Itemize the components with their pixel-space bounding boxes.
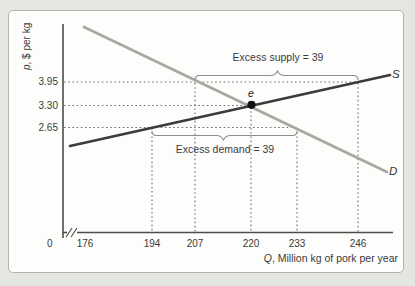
y-tick-2.65: 2.65 — [20, 122, 58, 133]
axis-break-slash-2 — [71, 228, 77, 237]
y-axis-variable: p — [21, 64, 32, 70]
x-tick-176: 176 — [77, 238, 94, 249]
x-tick-207: 207 — [187, 238, 204, 249]
x-axis-units: , Million kg of pork per year — [272, 252, 398, 264]
x-axis-variable: Q — [264, 252, 272, 264]
supply-curve-label: S — [392, 68, 400, 80]
origin-label: 0 — [47, 238, 53, 249]
y-axis-label: p, $ per kg — [21, 23, 32, 70]
x-tick-233: 233 — [289, 238, 306, 249]
x-tick-246: 246 — [350, 238, 367, 249]
demand-curve-label: D — [389, 165, 397, 177]
y-axis-units: , $ per kg — [21, 23, 32, 65]
y-tick-3.30: 3.30 — [20, 100, 58, 111]
excess-demand-annotation: Excess demand = 39 — [176, 143, 274, 155]
y-tick-3.95: 3.95 — [20, 76, 58, 87]
excess-demand-brace — [152, 131, 297, 140]
excess-supply-brace — [195, 71, 358, 80]
x-tick-194: 194 — [144, 238, 161, 249]
equilibrium-point — [247, 101, 255, 109]
x-tick-220: 220 — [243, 238, 260, 249]
equilibrium-label: e — [248, 87, 254, 99]
excess-supply-annotation: Excess supply = 39 — [233, 51, 324, 63]
x-axis-label: Q, Million kg of pork per year — [264, 252, 398, 264]
